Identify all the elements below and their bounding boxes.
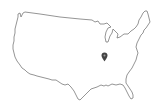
us-outline: [0, 0, 161, 109]
us-outline-map: [0, 0, 161, 109]
location-marker-icon[interactable]: [100, 52, 109, 62]
us-border-path: [13, 11, 150, 100]
